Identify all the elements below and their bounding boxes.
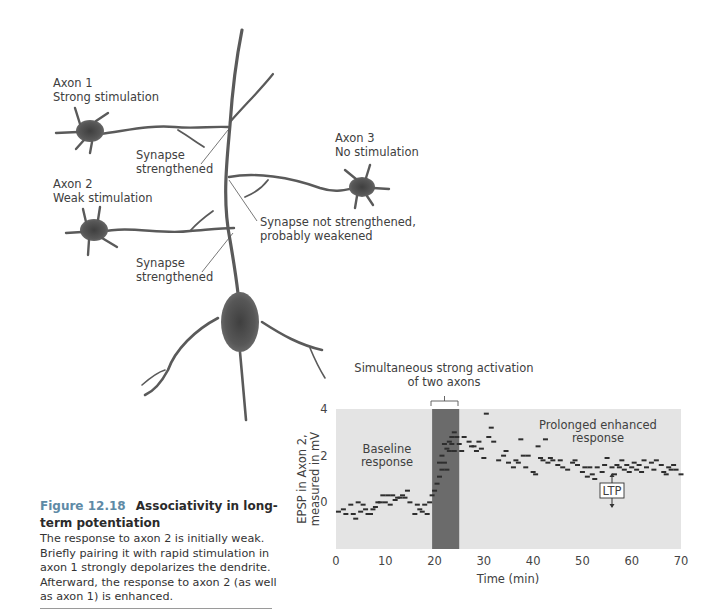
data-point <box>439 469 444 471</box>
data-point <box>565 469 570 471</box>
data-point <box>605 457 610 459</box>
data-point <box>427 501 432 503</box>
data-point <box>541 459 546 461</box>
data-point <box>412 513 417 515</box>
data-point <box>442 462 447 464</box>
data-point <box>619 459 624 461</box>
data-point <box>516 462 521 464</box>
x-tick-label: 60 <box>624 554 639 568</box>
data-point <box>580 471 585 473</box>
activation-band <box>432 409 459 549</box>
data-point <box>415 504 420 506</box>
x-tick-label: 40 <box>526 554 541 568</box>
data-point <box>669 469 674 471</box>
data-point <box>358 511 363 513</box>
data-point <box>548 457 553 459</box>
data-point <box>614 464 619 466</box>
data-point <box>472 445 477 447</box>
data-point <box>664 473 669 475</box>
data-point <box>651 469 656 471</box>
data-point <box>437 476 442 478</box>
data-point <box>575 464 580 466</box>
data-point <box>513 459 518 461</box>
data-point <box>385 494 390 496</box>
x-tick-label: 10 <box>378 554 393 568</box>
data-point <box>661 471 666 473</box>
data-point <box>582 466 587 468</box>
data-point <box>435 483 440 485</box>
data-point <box>632 462 637 464</box>
data-point <box>479 448 484 450</box>
data-point <box>457 443 462 445</box>
data-point <box>348 504 353 506</box>
data-point <box>590 473 595 475</box>
data-point <box>496 459 501 461</box>
data-point <box>432 490 437 492</box>
data-point <box>595 466 600 468</box>
data-point <box>447 450 452 452</box>
data-point <box>383 501 388 503</box>
data-point <box>679 473 684 475</box>
data-point <box>521 455 526 457</box>
data-point <box>481 457 486 459</box>
data-point <box>644 466 649 468</box>
data-point <box>511 466 516 468</box>
ltp-chart: 010203040506070024 Simultaneous strong a… <box>0 0 717 613</box>
data-point <box>610 466 615 468</box>
data-point <box>430 494 435 496</box>
data-point <box>504 450 509 452</box>
data-point <box>491 441 496 443</box>
data-point <box>452 431 457 433</box>
activation-annotation-line2: of two axons <box>407 375 480 389</box>
y-axis-label-line2: measured in mV <box>308 432 322 526</box>
data-point <box>634 469 639 471</box>
data-point <box>555 464 560 466</box>
data-point <box>422 504 427 506</box>
data-point <box>526 455 531 457</box>
data-point <box>356 501 361 503</box>
data-point <box>545 462 550 464</box>
data-point <box>558 459 563 461</box>
data-point <box>560 466 565 468</box>
data-point <box>353 518 358 520</box>
data-point <box>373 506 378 508</box>
data-point <box>489 427 494 429</box>
data-point <box>587 466 592 468</box>
x-tick-label: 0 <box>332 554 339 568</box>
ltp-label: LTP <box>603 484 622 498</box>
data-point <box>639 471 644 473</box>
data-point <box>592 478 597 480</box>
data-point <box>467 441 472 443</box>
data-point <box>536 445 541 447</box>
data-point <box>361 504 366 506</box>
data-point <box>444 469 449 471</box>
data-point <box>629 466 634 468</box>
data-point <box>570 462 575 464</box>
data-point <box>617 466 622 468</box>
y-axis-label-line1: EPSP in Axon 2, <box>295 434 309 524</box>
data-point <box>543 438 548 440</box>
data-point <box>501 455 506 457</box>
data-point <box>533 473 538 475</box>
data-point <box>476 441 481 443</box>
data-point <box>642 459 647 461</box>
data-point <box>351 513 356 515</box>
data-point <box>600 471 605 473</box>
data-point <box>388 504 393 506</box>
activation-bracket <box>431 396 458 406</box>
data-point <box>442 443 447 445</box>
data-point <box>363 508 368 510</box>
data-point <box>654 459 659 461</box>
data-point <box>550 459 555 461</box>
data-point <box>420 511 425 513</box>
data-point <box>417 508 422 510</box>
data-point <box>449 443 454 445</box>
data-point <box>370 508 375 510</box>
data-point <box>486 436 491 438</box>
baseline-annotation-line2: response <box>361 455 413 469</box>
y-tick-label: 4 <box>320 402 327 416</box>
x-tick-label: 20 <box>427 554 442 568</box>
data-point <box>602 464 607 466</box>
data-point <box>425 513 430 515</box>
data-point <box>474 450 479 452</box>
